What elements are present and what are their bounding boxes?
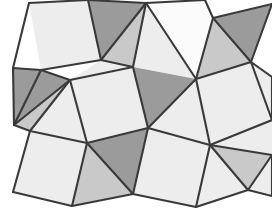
tessellation-canvas <box>0 0 272 221</box>
tessellation-figure <box>0 0 272 221</box>
tile-group <box>13 0 272 207</box>
tile-edge <box>13 68 14 125</box>
